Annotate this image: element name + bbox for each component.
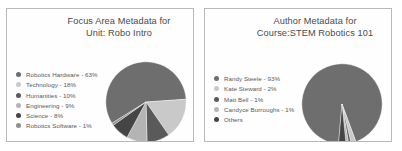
pie-graphic: [301, 63, 383, 142]
legend-item: Candyce Burroughs - 1%: [214, 105, 294, 115]
legend-item: Humanities - 10%: [16, 90, 98, 100]
legend-swatch-icon: [214, 76, 219, 81]
legend-item: Science - 8%: [16, 111, 98, 121]
legend-swatch-icon: [214, 97, 219, 102]
legend-item: Robotics Software - 1%: [16, 121, 98, 131]
legend-swatch-icon: [16, 72, 21, 77]
legend-item: Technology - 18%: [16, 80, 98, 90]
legend-label: Engineering - 9%: [26, 102, 74, 109]
legend-label: Robotics Hardware - 63%: [26, 71, 98, 78]
pie-graphic: [105, 61, 187, 142]
chart-title-author: Author Metadata for Course:STEM Robotics…: [205, 16, 391, 39]
chart-page: Focus Area Metadata for Unit: Robo Intro…: [0, 0, 402, 151]
chart-title-focus-area: Focus Area Metadata for Unit: Robo Intro: [7, 16, 193, 39]
legend-item: Others: [214, 115, 294, 125]
legend-label: Science - 8%: [26, 112, 63, 119]
pie-chart-focus-area: [105, 61, 187, 142]
legend-item: Robotics Hardware - 63%: [16, 70, 98, 80]
legend-label: Matt Bell - 1%: [224, 96, 263, 103]
legend-label: Technology - 18%: [26, 81, 76, 88]
legend-label: Others: [224, 116, 243, 123]
legend-label: Kate Steward - 2%: [224, 85, 276, 92]
legend-swatch-icon: [214, 117, 219, 122]
chart-legend-author: Randy Steele - 93%Kate Steward - 2%Matt …: [214, 74, 294, 125]
legend-label: Randy Steele - 93%: [224, 75, 280, 82]
legend-item: Kate Steward - 2%: [214, 84, 294, 94]
legend-swatch-icon: [16, 123, 21, 128]
chart-panel-focus-area: Focus Area Metadata for Unit: Robo Intro…: [6, 8, 194, 142]
legend-swatch-icon: [16, 93, 21, 98]
legend-item: Randy Steele - 93%: [214, 74, 294, 84]
legend-swatch-icon: [16, 113, 21, 118]
chart-panel-author: Author Metadata for Course:STEM Robotics…: [204, 8, 392, 142]
legend-item: Matt Bell - 1%: [214, 94, 294, 104]
legend-item: Engineering - 9%: [16, 101, 98, 111]
legend-label: Candyce Burroughs - 1%: [224, 106, 294, 113]
legend-label: Humanities - 10%: [26, 92, 76, 99]
pie-chart-author: [301, 63, 383, 142]
chart-legend-focus-area: Robotics Hardware - 63%Technology - 18%H…: [16, 70, 98, 131]
legend-swatch-icon: [16, 82, 21, 87]
legend-label: Robotics Software - 1%: [26, 122, 92, 129]
legend-swatch-icon: [16, 103, 21, 108]
legend-swatch-icon: [214, 86, 219, 91]
legend-swatch-icon: [214, 107, 219, 112]
